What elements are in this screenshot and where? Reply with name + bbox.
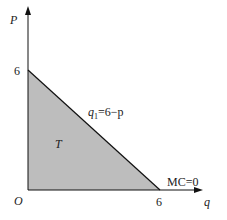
x-tick-6: 6	[156, 195, 162, 209]
origin-label: O	[14, 194, 23, 208]
y-axis-arrow-icon	[25, 6, 31, 15]
chart: P 6 O 6 q MC=0 T q1=6−p	[0, 0, 227, 220]
demand-label-rest: =6−p	[98, 105, 124, 119]
y-tick-6: 6	[14, 64, 20, 78]
y-axis-label: P	[9, 13, 18, 27]
demand-label: q1=6−p	[88, 105, 124, 121]
mc-label: MC=0	[167, 175, 198, 189]
x-axis-label: q	[204, 195, 210, 209]
